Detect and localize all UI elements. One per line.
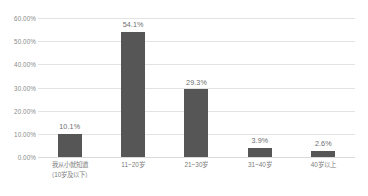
x-axis-tick-label: 11~20岁 xyxy=(101,160,164,170)
x-axis: 我从小就知道 （10岁及以下） 11~20岁 21~30岁 31~40岁 40岁… xyxy=(38,160,355,194)
y-axis-tick-label: 10.00% xyxy=(0,130,36,137)
bar-value-label: 54.1% xyxy=(123,20,144,29)
bar-chart: 0.00% 10.00% 20.00% 30.00% 40.00% 50.00%… xyxy=(0,0,368,196)
bar[interactable] xyxy=(248,148,272,157)
bar-value-label: 2.6% xyxy=(315,139,332,148)
bar-value-label: 10.1% xyxy=(59,122,80,131)
bar-value-label: 29.3% xyxy=(186,78,207,87)
bar-group: 2.6% xyxy=(292,18,355,157)
bar[interactable] xyxy=(121,32,145,157)
x-axis-tick-line1: 40岁以上 xyxy=(311,161,336,168)
bars-layer: 10.1% 54.1% 29.3% 3.9% 2.6% xyxy=(38,18,355,157)
bar[interactable] xyxy=(311,151,335,157)
y-axis-tick-label: 40.00% xyxy=(0,61,36,68)
y-axis-tick-label: 30.00% xyxy=(0,84,36,91)
x-axis-tick-line1: 我从小就知道 xyxy=(52,161,88,168)
y-axis-tick-label: 50.00% xyxy=(0,38,36,45)
x-axis-tick-label: 21~30岁 xyxy=(165,160,228,170)
bar-group: 10.1% xyxy=(38,18,101,157)
y-axis-tick-label: 0.00% xyxy=(0,154,36,161)
x-axis-tick-line1: 21~30岁 xyxy=(185,161,209,168)
y-axis-tick-label: 20.00% xyxy=(0,107,36,114)
bar-value-label: 3.9% xyxy=(251,136,268,145)
y-axis: 0.00% 10.00% 20.00% 30.00% 40.00% 50.00%… xyxy=(0,18,36,157)
bar-group: 54.1% xyxy=(101,18,164,157)
x-axis-tick-line1: 11~20岁 xyxy=(121,161,144,168)
x-axis-tick-label: 40岁以上 xyxy=(292,160,355,170)
bar-group: 29.3% xyxy=(165,18,228,157)
bar[interactable] xyxy=(184,89,208,157)
bar-group: 3.9% xyxy=(228,18,291,157)
x-axis-tick-line1: 31~40岁 xyxy=(248,161,272,168)
axis-baseline xyxy=(38,157,355,158)
x-axis-tick-label: 我从小就知道 （10岁及以下） xyxy=(38,160,101,179)
bar[interactable] xyxy=(58,134,82,157)
y-axis-tick-label: 60.00% xyxy=(0,15,36,22)
x-axis-tick-label: 31~40岁 xyxy=(228,160,291,170)
x-axis-tick-line2: （10岁及以下） xyxy=(38,170,101,180)
